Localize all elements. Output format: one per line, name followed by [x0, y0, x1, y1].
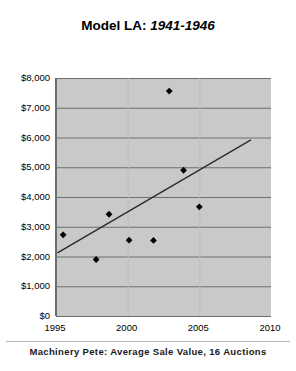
y-axis-tick-label: $8,000 [2, 73, 50, 83]
x-axis-tick-label: 2005 [178, 322, 218, 333]
x-axis-tick-label: 2010 [250, 322, 290, 333]
chart-title: Model LA: 1941-1946 [0, 18, 296, 33]
data-point-marker [196, 203, 203, 210]
scatter-plot-svg [56, 78, 271, 317]
trend-line [57, 140, 251, 253]
y-axis-tick-label: $7,000 [2, 103, 50, 113]
x-axis-tick-label: 1995 [35, 322, 75, 333]
chart-title-main: Model LA: [81, 18, 146, 33]
chart-title-subject: 1941-1946 [150, 18, 215, 33]
y-axis-labels: $8,000$7,000$6,000$5,000$4,000$3,000$2,0… [0, 78, 50, 316]
data-point-marker [126, 237, 133, 244]
y-axis-tick-label: $3,000 [2, 222, 50, 232]
chart-figure: Model LA: 1941-1946 $8,000$7,000$6,000$5… [0, 0, 296, 371]
data-point-marker [60, 231, 67, 238]
data-point-marker [150, 237, 157, 244]
y-axis-tick-label: $4,000 [2, 192, 50, 202]
x-axis-labels: 1995200020052010 [0, 322, 296, 336]
x-axis-tick-label: 2000 [107, 322, 147, 333]
plot-area [55, 78, 271, 316]
data-point-marker [166, 88, 173, 95]
y-axis-tick-label: $1,000 [2, 281, 50, 291]
y-axis-tick-label: $6,000 [2, 133, 50, 143]
y-axis-tick-label: $2,000 [2, 252, 50, 262]
y-axis-tick-label: $5,000 [2, 162, 50, 172]
chart-caption: Machinery Pete: Average Sale Value, 16 A… [0, 346, 296, 357]
data-point-marker [106, 211, 113, 218]
y-axis-tick-label: $0 [2, 311, 50, 321]
caption-divider [6, 341, 290, 342]
